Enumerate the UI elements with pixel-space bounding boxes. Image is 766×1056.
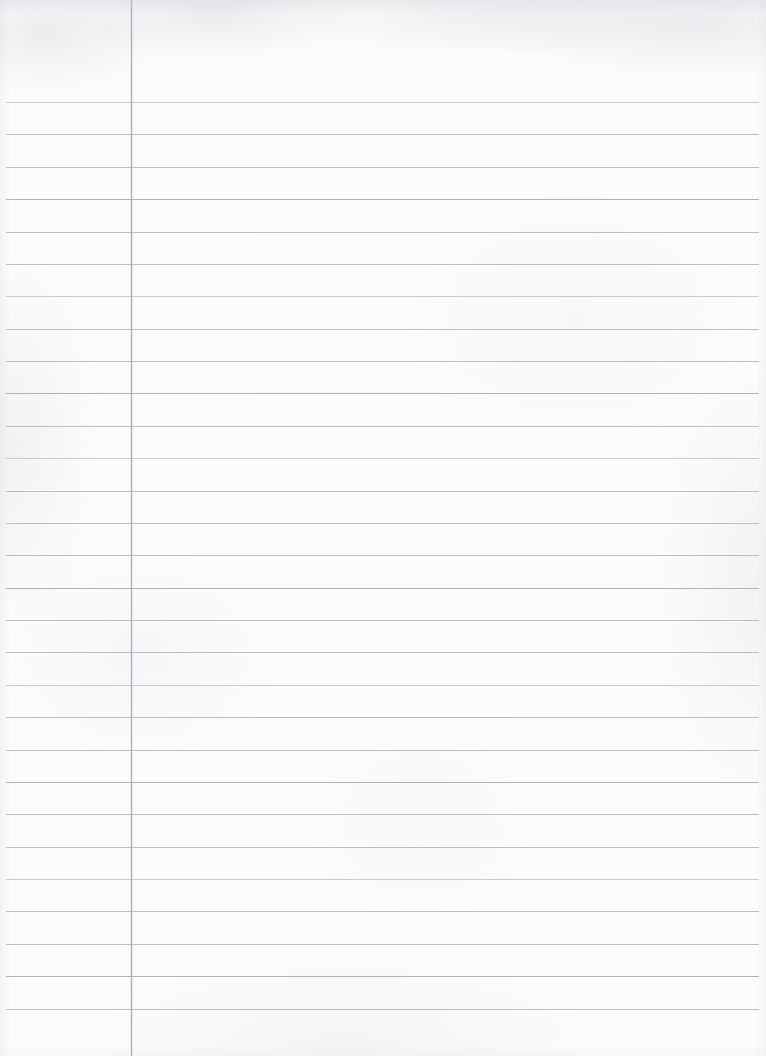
rule-line	[6, 685, 759, 686]
rule-line	[6, 717, 759, 718]
left-margin-rule	[131, 0, 132, 1056]
rule-line	[6, 329, 759, 330]
rule-line	[6, 750, 759, 751]
rule-line	[6, 393, 759, 394]
rule-line	[6, 426, 759, 427]
notebook-page	[0, 0, 766, 1056]
rule-line	[6, 232, 759, 233]
rule-line	[6, 944, 759, 945]
rule-line	[6, 555, 759, 556]
rule-line	[6, 199, 759, 200]
rule-line	[6, 491, 759, 492]
rule-line	[6, 620, 759, 621]
rule-line	[6, 264, 759, 265]
ruled-lines-layer	[0, 0, 766, 1056]
rule-line	[6, 458, 759, 459]
rule-line	[6, 523, 759, 524]
rule-line	[6, 879, 759, 880]
rule-line	[6, 976, 759, 977]
rule-line	[6, 102, 759, 103]
rule-line	[6, 1009, 759, 1010]
rule-line	[6, 814, 759, 815]
rule-line	[6, 782, 759, 783]
rule-line	[6, 652, 759, 653]
rule-line	[6, 911, 759, 912]
rule-line	[6, 296, 759, 297]
rule-line	[6, 847, 759, 848]
rule-line	[6, 134, 759, 135]
rule-line	[6, 588, 759, 589]
rule-line	[6, 361, 759, 362]
rule-line	[6, 167, 759, 168]
